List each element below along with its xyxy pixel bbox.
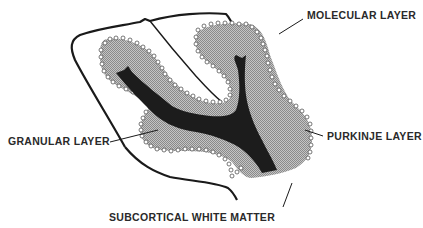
cerebellum-diagram xyxy=(0,0,423,228)
purkinje-layer-label: PURKINJE LAYER xyxy=(327,130,422,142)
subcortical-white-matter-label: SUBCORTICAL WHITE MATTER xyxy=(109,211,275,223)
molecular-layer-label: MOLECULAR LAYER xyxy=(307,9,416,21)
granular-layer-label: GRANULAR LAYER xyxy=(8,135,110,147)
subcortical-leader xyxy=(283,183,292,207)
molecular-leader xyxy=(279,19,303,34)
